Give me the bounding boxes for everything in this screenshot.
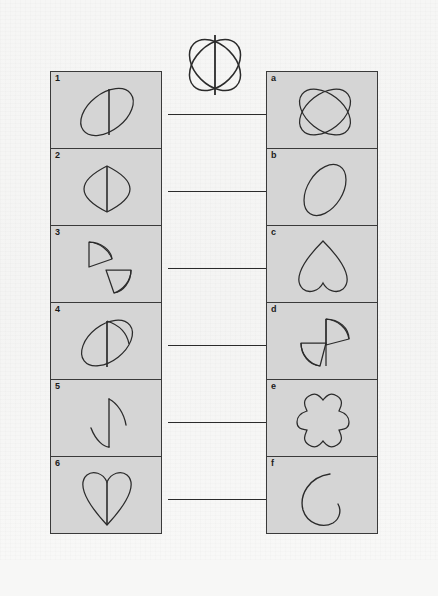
panel-f[interactable]: f bbox=[266, 456, 378, 534]
shape-open-c-curve-icon bbox=[267, 457, 379, 534]
answer-blank-row-5 bbox=[166, 379, 270, 456]
panel-d[interactable]: d bbox=[266, 302, 378, 379]
answer-blank-5[interactable] bbox=[168, 422, 268, 423]
panel-a[interactable]: a bbox=[266, 71, 378, 148]
shape-tilted-ellipse-with-vertical-chord-icon bbox=[51, 72, 163, 149]
answer-blank-1[interactable] bbox=[168, 114, 268, 115]
shape-four-lobed-squircle-icon bbox=[267, 380, 379, 457]
answer-blank-row-1 bbox=[166, 71, 270, 148]
answer-blank-row-3 bbox=[166, 225, 270, 302]
panel-5[interactable]: 5 bbox=[50, 379, 162, 456]
shape-tilted-ellipse-with-chord-and-arc-icon bbox=[51, 303, 163, 380]
panel-3[interactable]: 3 bbox=[50, 225, 162, 302]
answer-blank-row-2 bbox=[166, 148, 270, 225]
panel-2[interactable]: 2 bbox=[50, 148, 162, 225]
shape-curved-diamond-with-vertical-chord-icon bbox=[51, 149, 163, 226]
panel-6[interactable]: 6 bbox=[50, 456, 162, 534]
panel-1[interactable]: 1 bbox=[50, 71, 162, 148]
shape-inverted-heart-icon bbox=[267, 226, 379, 303]
panel-4[interactable]: 4 bbox=[50, 302, 162, 379]
answer-blank-3[interactable] bbox=[168, 268, 268, 269]
shape-tilted-ellipse-icon bbox=[267, 149, 379, 226]
answer-blank-row-6 bbox=[166, 456, 270, 533]
answer-blank-4[interactable] bbox=[168, 345, 268, 346]
shape-two-half-discs-s-arrangement-icon bbox=[267, 303, 379, 380]
shape-heart-with-vertical-chord-icon bbox=[51, 457, 163, 534]
answer-blank-2[interactable] bbox=[168, 191, 268, 192]
shape-two-crossed-ellipses-icon bbox=[267, 72, 379, 149]
answer-blank-column bbox=[166, 71, 270, 533]
shape-zigzag-arc-pair-icon bbox=[51, 380, 163, 457]
panel-b[interactable]: b bbox=[266, 148, 378, 225]
panel-e[interactable]: e bbox=[266, 379, 378, 456]
shape-two-separated-half-discs-icon bbox=[51, 226, 163, 303]
answer-blank-6[interactable] bbox=[168, 499, 268, 500]
right-panel-column: a b c bbox=[266, 71, 378, 534]
worksheet-sheet: 1 2 3 bbox=[0, 0, 438, 596]
left-panel-column: 1 2 3 bbox=[50, 71, 162, 534]
panel-c[interactable]: c bbox=[266, 225, 378, 302]
answer-blank-row-4 bbox=[166, 302, 270, 379]
